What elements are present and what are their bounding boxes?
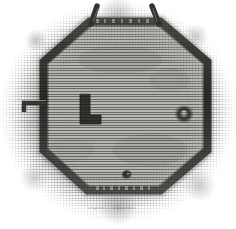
engraving-figure: engraver signature xyxy=(0,0,236,229)
engraver-signature: engraver signature xyxy=(88,205,148,210)
south-pit-core xyxy=(127,173,130,176)
south-pit-icon xyxy=(122,170,133,180)
plan-drawing xyxy=(0,0,236,229)
east-pit-core xyxy=(182,111,187,116)
